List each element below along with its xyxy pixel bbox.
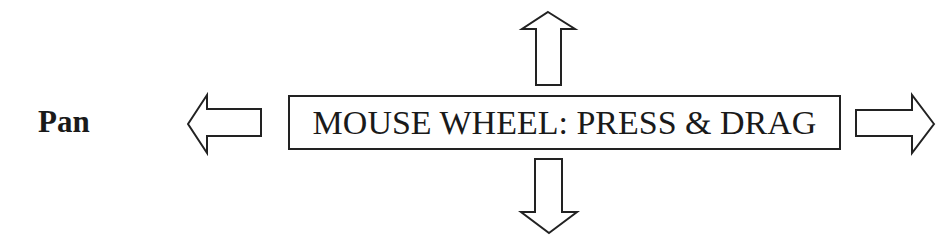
arrow-left-icon (188, 95, 261, 153)
mouse-wheel-action-box: MOUSE WHEEL: PRESS & DRAG (288, 95, 841, 150)
arrow-right-icon (856, 95, 934, 153)
action-box-text: MOUSE WHEEL: PRESS & DRAG (313, 104, 817, 142)
arrow-down-icon (521, 159, 577, 233)
arrow-up-icon (522, 12, 575, 85)
